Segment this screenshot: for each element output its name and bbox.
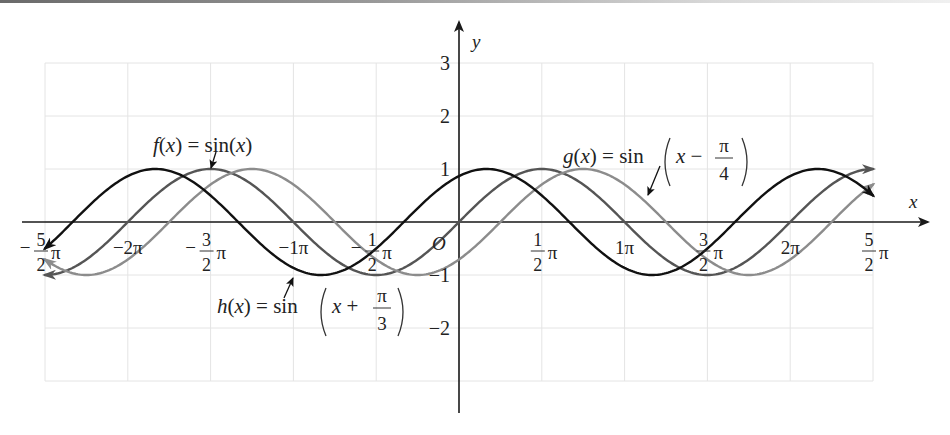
g-label-den: 4 [719,163,729,184]
x-tick-label: −52π [20,230,61,275]
g-label-arrow [648,166,660,195]
svg-text:2: 2 [368,255,377,275]
y-tick-label: 1 [440,158,450,180]
h-label-inner: x + [331,294,358,318]
x-tick-label: 12π [531,230,558,275]
svg-text:−: − [351,237,362,258]
svg-text:5: 5 [865,230,874,250]
svg-text:2: 2 [202,255,211,275]
svg-text:2: 2 [865,255,874,275]
svg-text:2: 2 [699,255,708,275]
g-paren-open [665,138,670,186]
svg-text:3: 3 [699,230,708,250]
svg-text:3: 3 [202,230,211,250]
h-label-prefix: h(x) = sin [217,294,298,318]
g-label-prefix: g(x) = sin [563,144,644,168]
label-g: g(x) = sin x − π 4 [563,135,747,195]
f-label-text: f(x) = sin(x) [153,133,252,157]
x-tick-label: −1π [278,237,308,258]
x-tick-label: 1π [615,237,635,258]
axes [22,22,928,413]
label-f: f(x) = sin(x) [153,133,252,168]
svg-text:π: π [51,242,61,263]
y-tick-label: 3 [440,52,450,74]
svg-text:1: 1 [368,230,377,250]
y-tick-label: −1 [429,264,450,286]
y-tick-label: −2 [429,317,450,339]
svg-text:−: − [185,237,196,258]
label-h: h(x) = sin x + π 3 [217,278,403,336]
svg-text:π: π [217,242,227,263]
svg-text:−2π: −2π [113,237,143,258]
h-paren-open [321,288,326,336]
h-paren-close [398,288,403,336]
svg-text:5: 5 [37,230,46,250]
svg-text:π: π [548,242,558,263]
svg-text:π: π [879,242,889,263]
h-label-num: π [377,285,387,306]
svg-text:1: 1 [533,230,542,250]
svg-text:2π: 2π [781,237,801,258]
svg-text:2: 2 [37,255,46,275]
x-tick-label: 2π [781,237,801,258]
y-axis-label: y [470,31,481,52]
h-label-den: 3 [377,313,387,334]
svg-text:−: − [20,237,31,258]
svg-text:−1π: −1π [278,237,308,258]
svg-text:1π: 1π [615,237,635,258]
x-tick-label: −32π [185,230,226,275]
svg-text:π: π [382,242,392,263]
sine-chart: −52π−2π−32π−1π−12π12π1π32π2π52π 321−1−2 … [0,0,950,435]
x-tick-label: −2π [113,237,143,258]
x-axis-label: x [908,191,918,212]
svg-text:π: π [713,242,723,263]
g-label-num: π [719,135,729,156]
g-label-inner: x − [675,144,702,168]
origin-label: O [432,233,446,254]
x-tick-label: 52π [862,230,889,275]
g-paren-close [742,138,747,186]
svg-text:2: 2 [533,255,542,275]
y-tick-label: 2 [440,105,450,127]
